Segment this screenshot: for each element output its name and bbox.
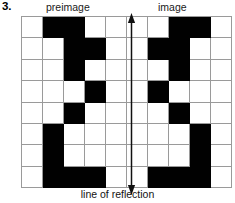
grid-cell <box>148 38 169 59</box>
grid-cell <box>85 103 106 124</box>
grid-cell <box>169 103 190 124</box>
grid-cell <box>85 124 106 145</box>
grid-cell <box>148 60 169 81</box>
grid-cell <box>148 124 169 145</box>
grid-cell <box>148 81 169 102</box>
grid-cell <box>64 145 85 166</box>
grid-cell <box>106 60 127 81</box>
grid-cell <box>127 145 148 166</box>
grid-cell <box>22 145 43 166</box>
line-of-reflection-caption: line of reflection <box>0 188 235 200</box>
grid-cell <box>43 124 64 145</box>
grid-cell <box>85 145 106 166</box>
preimage-label: preimage <box>46 1 90 13</box>
grid-cell <box>22 17 43 38</box>
grid-cell <box>211 60 232 81</box>
grid-cell <box>64 103 85 124</box>
grid-cell <box>127 38 148 59</box>
problem-number: 3. <box>2 0 11 12</box>
grid-cell <box>127 103 148 124</box>
grid-cell <box>127 167 148 188</box>
grid-cell <box>148 145 169 166</box>
grid-cell <box>169 17 190 38</box>
reflection-grid <box>21 16 232 188</box>
grid-cell <box>64 167 85 188</box>
grid-cell <box>190 60 211 81</box>
grid-cell <box>106 17 127 38</box>
grid-cell <box>22 124 43 145</box>
grid-cell <box>22 103 43 124</box>
grid-cell <box>169 167 190 188</box>
grid-cell <box>211 167 232 188</box>
grid-cell <box>43 145 64 166</box>
problem-header: 3. preimage image <box>0 0 235 15</box>
grid-cell <box>106 38 127 59</box>
grid-cell <box>148 103 169 124</box>
grid-cell <box>127 124 148 145</box>
grid-cell <box>211 124 232 145</box>
grid-cell <box>211 103 232 124</box>
grid-cell <box>148 167 169 188</box>
grid-cell <box>190 81 211 102</box>
grid-cell <box>85 81 106 102</box>
grid-cell <box>106 145 127 166</box>
grid-cell <box>85 38 106 59</box>
grid-cell <box>22 167 43 188</box>
grid-cell <box>190 124 211 145</box>
grid-cell <box>64 38 85 59</box>
grid-cell <box>64 17 85 38</box>
grid-cell <box>43 81 64 102</box>
grid-cell <box>106 103 127 124</box>
grid-cell <box>127 81 148 102</box>
grid-cell <box>64 81 85 102</box>
grid-cell <box>169 60 190 81</box>
grid-cell <box>127 60 148 81</box>
grid-cell <box>43 60 64 81</box>
grid-cell <box>22 60 43 81</box>
grid-cell <box>43 17 64 38</box>
grid-cell <box>106 81 127 102</box>
grid-cell <box>190 145 211 166</box>
grid-cell <box>85 17 106 38</box>
grid-cell <box>190 17 211 38</box>
grid-cell <box>64 124 85 145</box>
worksheet-problem: 3. preimage image line of reflection <box>0 0 235 203</box>
grid-cell <box>169 81 190 102</box>
grid-cell <box>211 81 232 102</box>
grid-cell <box>190 38 211 59</box>
grid-cell <box>106 124 127 145</box>
grid-cell <box>43 167 64 188</box>
reflection-grid-wrapper <box>21 16 232 188</box>
grid-cell <box>127 17 148 38</box>
image-label: image <box>158 1 187 13</box>
grid-cell <box>64 60 85 81</box>
grid-cell <box>169 145 190 166</box>
grid-cell <box>22 81 43 102</box>
grid-cell <box>169 38 190 59</box>
grid-cell <box>169 124 190 145</box>
grid-cell <box>211 38 232 59</box>
grid-cell <box>211 145 232 166</box>
grid-cell <box>190 103 211 124</box>
grid-cell <box>211 17 232 38</box>
grid-cell <box>85 167 106 188</box>
grid-cell <box>190 167 211 188</box>
grid-cell <box>22 38 43 59</box>
grid-cell <box>148 17 169 38</box>
grid-cell <box>43 103 64 124</box>
grid-cell <box>106 167 127 188</box>
grid-cell <box>85 60 106 81</box>
grid-cell <box>43 38 64 59</box>
